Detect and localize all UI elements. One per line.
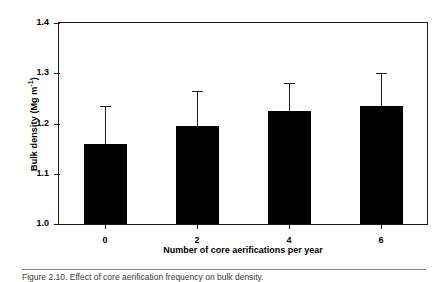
y-tick-label: 1.4 [9,17,49,27]
y-axis-title-tail: ) [29,77,39,80]
figure-container: Bulk density (Mg m-1) 1.01.11.21.31.4024… [0,0,448,282]
bar [84,144,127,224]
plot-area: 1.01.11.21.31.40246 [58,22,428,225]
bar [268,111,311,224]
error-bar [197,91,198,126]
error-bar-cap [284,83,295,84]
error-bar-cap [376,73,387,74]
y-tick-label: 1.1 [9,168,49,178]
y-tick-mark [54,224,60,225]
x-axis-title: Number of core aerifications per year [58,245,428,255]
y-axis-title-superscript: -1 [27,80,34,86]
y-tick-mark [54,73,60,74]
error-bar [381,73,382,106]
x-tick-label: 4 [269,235,309,245]
x-tick-mark [289,224,290,229]
error-bar-cap [192,91,203,92]
x-tick-label: 0 [85,235,125,245]
x-tick-label: 2 [177,235,217,245]
y-axis-title-text: Bulk density (Mg m [29,87,39,171]
x-tick-mark [105,224,106,229]
caption-divider [22,269,426,270]
bar [360,106,403,224]
y-tick-label: 1.0 [9,218,49,228]
y-tick-label: 1.2 [9,118,49,128]
y-tick-mark [54,124,60,125]
y-tick-label: 1.3 [9,67,49,77]
figure-caption: Figure 2.10. Effect of core aerification… [22,272,426,282]
x-tick-mark [381,224,382,229]
error-bar [105,106,106,144]
error-bar-cap [100,106,111,107]
error-bar [289,83,290,111]
bar [176,126,219,224]
y-tick-mark [54,174,60,175]
y-tick-mark [54,23,60,24]
x-tick-label: 6 [361,235,401,245]
x-tick-mark [197,224,198,229]
